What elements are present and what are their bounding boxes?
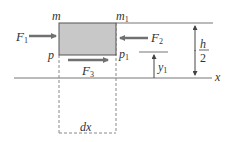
label-f2-base: F — [151, 30, 159, 45]
label-f1-base: F — [16, 29, 24, 44]
label-p: p — [48, 49, 54, 61]
label-m1: m1 — [116, 10, 129, 24]
label-m1-sub: 1 — [125, 15, 129, 24]
label-f3-sub: 3 — [90, 70, 94, 79]
shaded-element — [59, 23, 116, 55]
label-f1-sub: 1 — [24, 36, 28, 45]
label-x-axis: x — [215, 71, 220, 83]
label-m1-base: m — [116, 9, 125, 23]
label-h-text: h — [200, 37, 206, 51]
label-m-text: m — [52, 9, 61, 23]
label-p-text: p — [48, 48, 54, 62]
label-2-text: 2 — [200, 51, 206, 65]
label-y1-sub: 1 — [163, 66, 167, 75]
label-x-text: x — [215, 70, 220, 84]
label-y1: y1 — [158, 61, 167, 75]
label-p1: p1 — [119, 48, 129, 62]
label-f2: F2 — [151, 31, 163, 46]
label-p1-sub: 1 — [125, 53, 129, 62]
label-h-numerator: h — [200, 38, 206, 50]
label-m: m — [52, 10, 61, 22]
label-dx: dx — [80, 121, 91, 133]
label-2-denominator: 2 — [200, 52, 206, 64]
label-f1: F1 — [16, 30, 28, 45]
label-f2-sub: 2 — [159, 37, 163, 46]
label-f3-base: F — [82, 63, 90, 78]
label-dx-text: dx — [80, 120, 91, 134]
label-f3: F3 — [82, 64, 94, 79]
